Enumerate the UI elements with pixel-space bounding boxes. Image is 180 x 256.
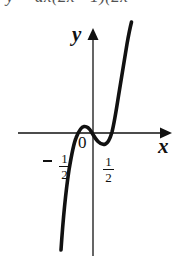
origin-label: 0	[78, 134, 87, 151]
graph-svg	[0, 14, 180, 256]
formula-strip: y = ax(2x - 1)(2x	[0, 0, 180, 15]
x-tick-label-negative-one-half: 1 2	[59, 152, 70, 182]
fraction-numerator: 1	[60, 152, 69, 165]
minus-sign-icon	[43, 160, 52, 162]
fraction-denominator: 2	[104, 171, 113, 184]
curve-path	[61, 22, 132, 250]
x-tick-label-positive-one-half: 1 2	[103, 155, 114, 185]
figure-root: y = ax(2x - 1)(2x y x 0 1	[0, 0, 180, 256]
y-axis-label: y	[72, 24, 81, 45]
fraction-numerator: 1	[104, 155, 113, 168]
equation-label: y = ax(2x - 1)(2x	[6, 0, 128, 7]
cubic-curve	[61, 22, 132, 250]
fraction-denominator: 2	[60, 168, 69, 181]
y-axis-arrowhead	[88, 28, 99, 40]
x-axis-label: x	[158, 136, 169, 157]
plot-area	[0, 14, 180, 256]
